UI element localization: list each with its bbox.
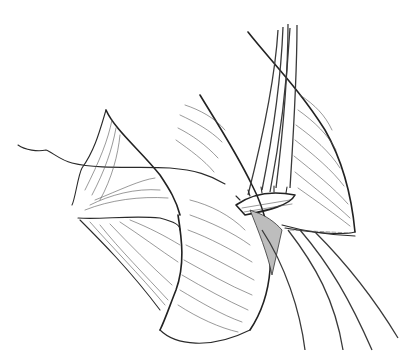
left-suture-thread	[18, 145, 225, 184]
left-lower-flap	[78, 215, 182, 330]
top-sutures	[248, 24, 297, 195]
surgical-illustration	[0, 0, 408, 358]
anastomosis-site	[236, 186, 355, 275]
right-flap	[248, 32, 355, 234]
bottom-sutures	[262, 230, 398, 350]
left-upper-flap	[72, 110, 180, 215]
